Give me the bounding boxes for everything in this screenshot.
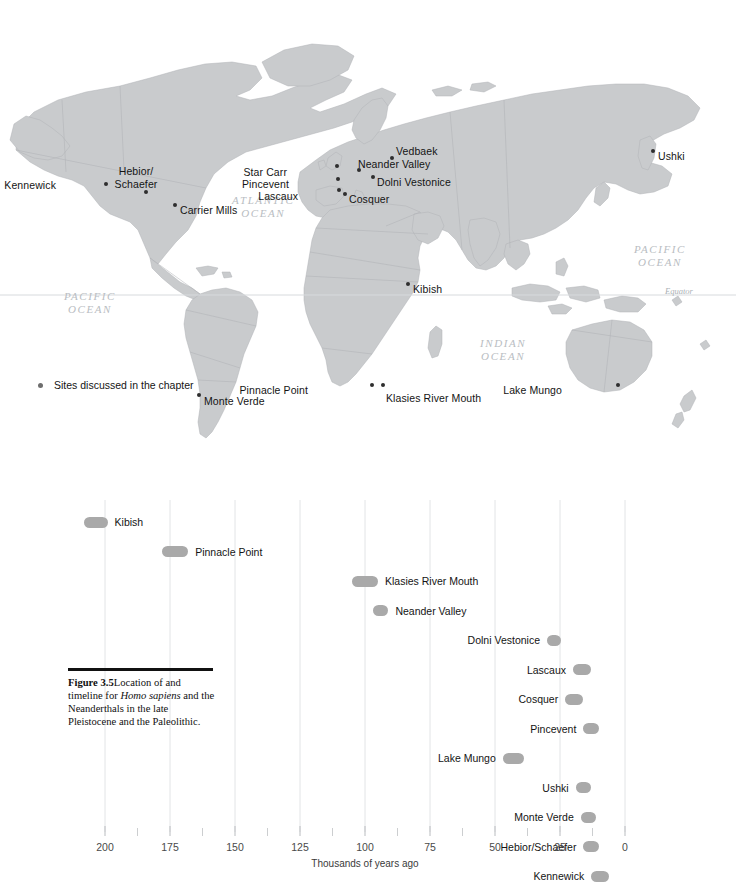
timeline-bar-hebior-schaefer[interactable] [583,841,599,852]
map-dot-carrier-mills[interactable] [173,203,177,207]
x-tick-label-100: 100 [345,841,385,853]
ocean-label-indian: INDIAN OCEAN [480,337,526,363]
legend-label: Sites discussed in the chapter [54,379,194,391]
timeline-bar-kibish[interactable] [84,517,107,528]
timeline-bar-monte-verde[interactable] [581,812,597,823]
ocean-label-line2: OCEAN [634,256,686,269]
ocean-label-line1: PACIFIC [634,243,686,256]
map-label-cosquer: Cosquer [349,193,389,205]
map-dot-ushki[interactable] [651,149,655,153]
timeline-label-lascaux: Lascaux [527,665,566,676]
timeline-bar-kennewick[interactable] [591,871,609,882]
timeline-bar-pinnacle-point[interactable] [162,546,188,557]
map-legend: Sites discussed in the chapter [38,379,194,391]
timeline-label-lake-mungo: Lake Mungo [438,753,496,764]
x-tick-label-150: 150 [215,841,255,853]
x-tick-label-25: 25 [540,841,580,853]
timeline-bar-neander-valley[interactable] [373,605,389,616]
ocean-label-pacific-east: PACIFIC OCEAN [634,243,686,269]
map-label-dolni-vestonice: Dolni Vestonice [377,176,451,188]
equator-label: Equator [665,286,693,296]
ocean-label-pacific-west: PACIFIC OCEAN [64,290,116,316]
caption-italic-species: Homo sapiens [120,690,180,701]
map-dot-kibish[interactable] [406,282,410,286]
map-label-ushki: Ushki [658,150,685,162]
ocean-label-line2: OCEAN [232,207,295,220]
timeline-label-neander-valley: Neander Valley [395,606,466,617]
map-label-hebior-schaefer: Hebior/Schaefer [115,165,158,191]
ocean-label-line2: OCEAN [64,303,116,316]
timeline-bar-lascaux[interactable] [573,664,591,675]
map-dot-klasies-river-mouth[interactable] [381,383,385,387]
figure-caption: Figure 3.5Location of and timeline for H… [68,668,218,728]
timeline-label-cosquer: Cosquer [518,694,558,705]
map-label-line1: Hebior/ [115,165,158,178]
map-label-pinnacle-point: Pinnacle Point [239,384,308,396]
map-label-kennewick: Kennewick [4,179,56,191]
timeline-label-kibish: Kibish [115,517,144,528]
timeline-bar-klasies-river-mouth[interactable] [352,576,378,587]
map-dot-kennewick[interactable] [104,182,108,186]
world-map-figure: ATLANTIC OCEAN PACIFIC OCEAN PACIFIC OCE… [0,0,736,470]
map-dot-lascaux[interactable] [337,188,341,192]
map-dot-monte-verde[interactable] [197,393,201,397]
timeline-label-monte-verde: Monte Verde [514,812,574,823]
x-tick-label-200: 200 [85,841,125,853]
map-label-carrier-mills: Carrier Mills [180,204,237,216]
timeline-bar-pincevent[interactable] [583,723,599,734]
x-tick-label-75: 75 [410,841,450,853]
map-dot-cosquer[interactable] [343,192,347,196]
x-axis-title: Thousands of years ago [265,858,465,869]
map-label-star-carr: Star Carr [244,166,288,178]
map-label-neander-valley: Neander Valley [358,158,430,170]
map-label-monte-verde: Monte Verde [204,395,265,407]
map-dot-star-carr[interactable] [335,164,339,168]
map-label-vedbaek: Vedbaek [396,145,438,157]
x-tick-label-0: 0 [605,841,645,853]
timeline-label-dolni-vestonice: Dolni Vestonice [468,635,540,646]
caption-figure-number: Figure 3.5 [68,677,114,688]
map-label-lascaux: Lascaux [258,190,298,202]
timeline-bar-lake-mungo[interactable] [503,753,524,764]
timeline-bar-ushki[interactable] [576,782,592,793]
caption-rule [68,668,213,671]
timeline-bar-dolni-vestonice[interactable] [547,635,561,646]
map-dot-dolni-vestonice[interactable] [371,175,375,179]
map-label-klasies-river-mouth: Klasies River Mouth [386,392,481,404]
map-dot-pinnacle-point[interactable] [370,383,374,387]
x-tick-label-175: 175 [150,841,190,853]
map-label-kibish: Kibish [413,283,442,295]
world-map-graphic [0,0,736,470]
caption-text: Figure 3.5Location of and timeline for H… [68,676,218,729]
timeline-label-kennewick: Kennewick [533,871,584,882]
map-label-line2: Schaefer [115,178,158,191]
ocean-label-line1: PACIFIC [64,290,116,303]
x-tick-label-125: 125 [280,841,320,853]
timeline-label-pincevent: Pincevent [530,724,576,735]
map-dot-pincevent[interactable] [336,177,340,181]
map-label-lake-mungo: Lake Mungo [503,384,562,396]
x-tick-label-50: 50 [475,841,515,853]
map-dot-lake-mungo[interactable] [616,383,620,387]
timeline-label-klasies-river-mouth: Klasies River Mouth [385,576,478,587]
map-label-pincevent: Pincevent [242,178,289,190]
ocean-label-line1: INDIAN [480,337,526,350]
map-dot-icon [38,383,43,388]
ocean-label-line2: OCEAN [480,350,526,363]
timeline-bar-cosquer[interactable] [565,694,583,705]
timeline-label-ushki: Ushki [542,783,568,794]
timeline-label-pinnacle-point: Pinnacle Point [195,547,262,558]
